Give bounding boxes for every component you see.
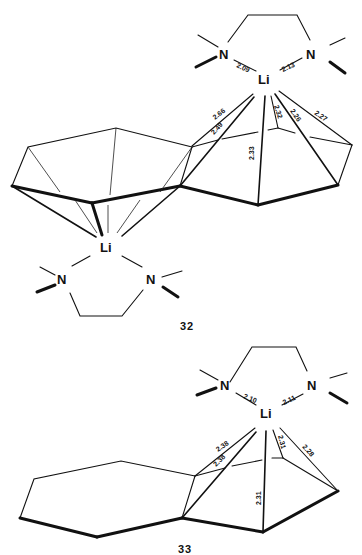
atom-li-top-32: Li bbox=[258, 72, 270, 87]
bond-label-n2-li-32: 2.13 bbox=[280, 61, 295, 73]
bond-label-n1-li-33: 2.10 bbox=[243, 392, 258, 404]
cyclopentadienyl-ring-32 bbox=[180, 128, 352, 205]
bond-label-li-c-b-32: 2.49 bbox=[210, 121, 224, 136]
tmeda-top-33: N N Li 2.10 2.11 bbox=[197, 347, 347, 421]
atom-li-top-33: Li bbox=[260, 406, 272, 421]
compound-label-33: 33 bbox=[178, 543, 192, 555]
bond-label-li-c-f-32: 2.33 bbox=[248, 146, 255, 160]
compound-label-32: 32 bbox=[180, 320, 194, 332]
tmeda-bottom-32: Li N N bbox=[37, 240, 182, 316]
atom-n-right-bottom-32: N bbox=[146, 272, 155, 287]
bond-label-n2-li-33: 2.11 bbox=[281, 394, 296, 406]
bond-label-li-c-d-32: 2.26 bbox=[289, 108, 303, 123]
structure-diagram: N N Li 2.09 2.13 2.66 2.49 2.32 2.26 2.2… bbox=[0, 0, 362, 555]
atom-n-left-33: N bbox=[220, 378, 229, 393]
structure-33: N N Li 2.10 2.11 2.38 2.38 2.31 2.28 2.3… bbox=[20, 347, 347, 555]
atom-n-left-bottom-32: N bbox=[57, 272, 66, 287]
atom-li-bottom-32: Li bbox=[100, 240, 112, 255]
tmeda-top-32: N N Li 2.09 2.13 bbox=[196, 15, 345, 87]
cyclohexane-ring-33 bbox=[20, 461, 195, 537]
atom-n-left-32: N bbox=[219, 47, 228, 62]
bond-label-li-c-a-33: 2.38 bbox=[215, 439, 230, 453]
li-carbon-bonds-top-33: 2.38 2.38 2.31 2.28 2.31 bbox=[182, 428, 338, 532]
structure-32: N N Li 2.09 2.13 2.66 2.49 2.32 2.26 2.2… bbox=[12, 15, 352, 332]
bond-label-li-c-b-33: 2.38 bbox=[212, 453, 227, 468]
bond-label-n1-li-32: 2.09 bbox=[236, 62, 251, 74]
bond-label-li-c-e-32: 2.27 bbox=[313, 109, 328, 123]
atom-n-right-32: N bbox=[306, 47, 315, 62]
bond-label-li-c-d-33: 2.28 bbox=[301, 443, 315, 458]
atom-n-right-33: N bbox=[307, 378, 316, 393]
bond-label-li-c-e-33: 2.31 bbox=[255, 491, 262, 505]
cycloheptatrienyl-ring-32 bbox=[12, 128, 192, 237]
